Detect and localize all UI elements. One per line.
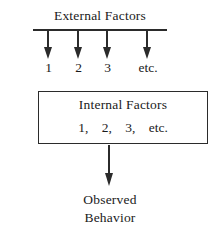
internal-factors-heading: Internal Factors — [39, 97, 207, 113]
internal-item-1: 1, — [73, 120, 93, 136]
internal-item-2: 2, — [97, 120, 117, 136]
arrow-head-down-icon — [105, 173, 113, 186]
external-arrow-1 — [44, 31, 53, 59]
external-label-2: 2 — [68, 60, 89, 75]
external-arrow-4 — [143, 31, 152, 59]
external-factors-heading: External Factors — [33, 8, 167, 24]
observed-behavior-line-2: Behavior — [50, 209, 170, 227]
internal-factors-items: 1, 2, 3, etc. — [39, 120, 207, 136]
external-arrow-3 — [103, 31, 112, 59]
external-label-3: 3 — [97, 60, 118, 75]
arrow-head-down-icon — [74, 47, 82, 59]
diagram-canvas: External Factors 1 2 3 etc. Internal Fac… — [0, 0, 217, 236]
arrow-head-down-icon — [143, 47, 151, 59]
external-label-etc: etc. — [128, 60, 168, 75]
internal-item-etc: etc. — [144, 120, 173, 136]
observed-behavior-line-1: Observed — [50, 191, 170, 209]
external-factors-group: External Factors 1 2 3 etc. — [0, 0, 217, 88]
internal-factors-box: Internal Factors 1, 2, 3, etc. — [38, 91, 208, 144]
internal-item-3: 3, — [120, 120, 140, 136]
external-arrow-2 — [74, 31, 83, 59]
output-arrow — [105, 145, 114, 187]
arrow-head-down-icon — [103, 47, 111, 59]
external-label-1: 1 — [38, 60, 59, 75]
arrow-head-down-icon — [44, 47, 52, 59]
observed-behavior-label: Observed Behavior — [50, 191, 170, 227]
